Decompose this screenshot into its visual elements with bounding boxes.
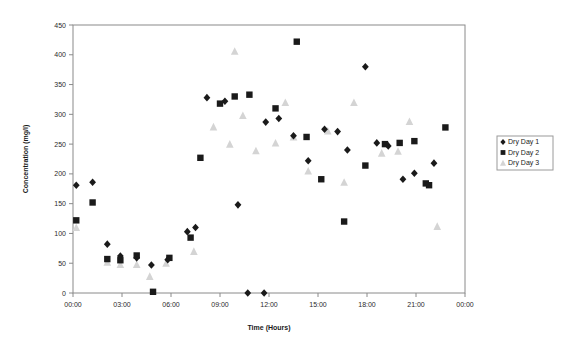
data-point — [304, 167, 312, 175]
legend-label-3[interactable]: Dry Day 3 — [508, 159, 539, 167]
data-point — [117, 257, 123, 263]
data-point — [305, 157, 312, 165]
data-point — [217, 100, 223, 106]
x-tick-label: 00:00 — [64, 301, 82, 308]
y-tick-label: 300 — [54, 111, 66, 118]
data-point — [235, 201, 242, 209]
data-point — [104, 256, 110, 262]
x-tick-label: 06:00 — [162, 301, 180, 308]
x-tick-label: 18:00 — [358, 301, 376, 308]
data-point — [334, 128, 341, 136]
data-point — [244, 289, 251, 297]
x-tick-label: 21:00 — [407, 301, 425, 308]
data-point — [394, 147, 402, 155]
x-tick-label: 12:00 — [260, 301, 278, 308]
data-point — [239, 112, 247, 120]
x-axis-title: Time (Hours) — [247, 324, 290, 332]
data-point — [272, 139, 280, 147]
data-point — [252, 147, 260, 155]
data-point — [184, 228, 191, 236]
data-point — [275, 115, 282, 123]
y-tick-label: 150 — [54, 200, 66, 207]
data-point — [294, 38, 300, 44]
y-tick-label: 350 — [54, 81, 66, 88]
data-point — [362, 63, 369, 71]
y-axis-title: Concentration (mg/l) — [22, 125, 30, 193]
data-point — [406, 117, 414, 125]
data-point — [382, 141, 388, 147]
y-tick-label: 200 — [54, 170, 66, 177]
data-point — [204, 94, 211, 102]
y-tick-label: 250 — [54, 141, 66, 148]
data-point — [73, 217, 79, 223]
data-point — [262, 118, 269, 126]
data-point — [190, 247, 198, 255]
y-tick-label: 50 — [58, 260, 66, 267]
y-tick-label: 400 — [54, 51, 66, 58]
data-point — [73, 181, 80, 189]
data-point — [411, 169, 418, 177]
data-point — [166, 255, 172, 261]
x-axis-ticks: 00:0003:0006:0009:0012:0015:0018:0021:00… — [64, 293, 474, 308]
x-tick-label: 03:00 — [113, 301, 131, 308]
data-point — [246, 91, 252, 97]
series-dry-day-1 — [73, 63, 438, 297]
plot-frame — [73, 25, 465, 293]
data-point — [400, 175, 407, 183]
y-tick-label: 450 — [54, 22, 66, 29]
data-point — [378, 149, 386, 157]
data-point — [433, 222, 441, 230]
data-point — [303, 134, 309, 140]
legend-marker-2 — [501, 150, 506, 155]
data-point — [344, 146, 351, 154]
data-point — [282, 98, 290, 106]
y-tick-label: 0 — [62, 290, 66, 297]
x-tick-label: 00:00 — [456, 301, 474, 308]
data-point — [442, 124, 448, 130]
data-point — [231, 47, 239, 55]
data-point — [272, 105, 278, 111]
data-point — [340, 178, 348, 186]
data-point — [197, 155, 203, 161]
data-point — [89, 178, 96, 186]
data-point-group — [72, 38, 448, 296]
data-point — [72, 223, 80, 231]
chart-legend[interactable]: Dry Day 1Dry Day 2Dry Day 3 — [497, 136, 553, 170]
y-tick-label: 100 — [54, 230, 66, 237]
series-dry-day-3 — [72, 47, 441, 280]
data-point — [146, 272, 154, 280]
data-point — [426, 182, 432, 188]
data-point — [373, 139, 380, 147]
y-axis-ticks: 050100150200250300350400450 — [54, 22, 73, 297]
data-point — [232, 93, 238, 99]
data-point — [134, 252, 140, 258]
data-point — [192, 224, 199, 232]
legend-label-2[interactable]: Dry Day 2 — [508, 149, 539, 157]
data-point — [89, 199, 95, 205]
data-point — [350, 98, 358, 106]
data-point — [341, 218, 347, 224]
x-tick-label: 15:00 — [309, 301, 327, 308]
data-point — [187, 234, 193, 240]
scatter-chart-figure: 050100150200250300350400450 00:0003:0006… — [0, 0, 566, 343]
data-point — [226, 140, 234, 148]
data-point — [261, 289, 268, 297]
data-point — [396, 140, 402, 146]
legend-label-1[interactable]: Dry Day 1 — [508, 138, 539, 146]
x-tick-label: 09:00 — [211, 301, 229, 308]
data-point — [431, 159, 438, 167]
data-point — [150, 289, 156, 295]
data-point — [210, 123, 218, 131]
data-point — [148, 261, 155, 269]
data-point — [318, 176, 324, 182]
data-point — [362, 162, 368, 168]
data-point — [411, 138, 417, 144]
data-point — [104, 240, 111, 248]
series-dry-day-2 — [73, 38, 449, 295]
